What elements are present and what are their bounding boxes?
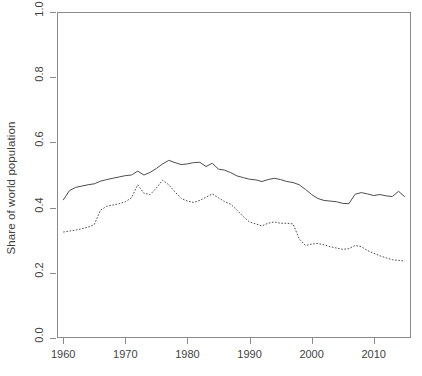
- x-tick-label: 1990: [237, 348, 261, 360]
- x-tick-label: 1970: [113, 348, 137, 360]
- y-tick-label: 1.0: [0, 3, 46, 15]
- x-tick-mark: [374, 338, 375, 344]
- x-tick-mark: [312, 338, 313, 344]
- y-tick-label: 0.6: [0, 133, 46, 145]
- y-tick-label: 0.8: [0, 68, 46, 80]
- x-tick-mark: [125, 338, 126, 344]
- y-tick-label: 0.4: [0, 199, 46, 211]
- y-tick-label: 0.2: [0, 264, 46, 276]
- x-tick-mark: [250, 338, 251, 344]
- chart-figure: Share of world population 0.00.20.40.60.…: [0, 0, 422, 376]
- y-tick-mark: [50, 77, 56, 78]
- x-tick-mark: [63, 338, 64, 344]
- series-line-solid-series: [63, 160, 405, 203]
- y-tick-mark: [50, 338, 56, 339]
- x-tick-label: 2010: [361, 348, 385, 360]
- x-tick-mark: [187, 338, 188, 344]
- series-line-dotted-series: [63, 180, 405, 261]
- x-tick-label: 1960: [51, 348, 75, 360]
- y-tick-mark: [50, 273, 56, 274]
- x-tick-label: 1980: [175, 348, 199, 360]
- x-tick-label: 2000: [299, 348, 323, 360]
- y-tick-label: 0.0: [0, 329, 46, 341]
- y-tick-mark: [50, 142, 56, 143]
- y-tick-mark: [50, 12, 56, 13]
- y-tick-mark: [50, 208, 56, 209]
- y-axis-title: Share of world population: [0, 0, 22, 376]
- plot-series-layer: [57, 12, 411, 338]
